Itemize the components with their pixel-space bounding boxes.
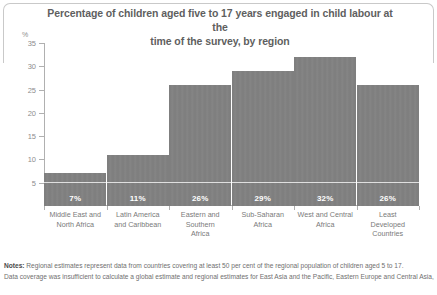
bar-value-label: 7% <box>44 194 106 203</box>
y-tick-label: 35 <box>28 39 36 48</box>
category-label-line: and Caribbean <box>107 220 169 230</box>
category-label-line: Middle East and <box>44 210 106 220</box>
bar-value-label: 26% <box>169 194 231 203</box>
category-label-line: Sub-Saharan <box>232 210 294 220</box>
bar-value-label: 26% <box>357 194 419 203</box>
bar-slot: 32% <box>294 43 356 206</box>
chart-title-line-1: Percentage of children aged five to 17 y… <box>40 6 400 34</box>
category-label-line: Latin America <box>107 210 169 220</box>
bar-value-label: 29% <box>232 194 294 203</box>
y-tick-label: 5 <box>32 178 36 187</box>
category-label-line: West and Central <box>294 210 356 220</box>
bar-slot: 26% <box>169 43 231 206</box>
bar[interactable]: 32% <box>294 57 356 206</box>
category-label-line: Countries <box>357 229 419 239</box>
category-label: LeastDevelopedCountries <box>357 210 419 239</box>
bar-slot: 7% <box>44 43 106 206</box>
category-label: Middle East andNorth Africa <box>44 210 106 239</box>
category-label-line: Africa <box>169 229 231 239</box>
y-tick-label: 25 <box>28 85 36 94</box>
bar-slot: 26% <box>357 43 419 206</box>
y-tick-label: 15 <box>28 132 36 141</box>
x-tick-mark <box>419 206 420 210</box>
bar[interactable]: 7% <box>44 173 106 206</box>
x-axis-category-labels: Middle East andNorth AfricaLatin America… <box>44 210 419 239</box>
category-label: Eastern andSouthernAfrica <box>169 210 231 239</box>
plot-area: 5101520253035 7%11%26%29%32%26% <box>44 43 419 206</box>
bar-slot: 11% <box>107 43 169 206</box>
bar[interactable]: 26% <box>357 85 419 206</box>
notes-label: Notes: <box>4 262 25 269</box>
bar[interactable]: 26% <box>169 85 231 206</box>
category-label-line: Least <box>357 210 419 220</box>
category-label-line: Eastern and <box>169 210 231 220</box>
y-tick-label: 10 <box>28 155 36 164</box>
bar-series: 7%11%26%29%32%26% <box>44 43 419 206</box>
category-label: Latin Americaand Caribbean <box>107 210 169 239</box>
y-tick-label: 30 <box>28 62 36 71</box>
bar-value-label: 11% <box>107 194 169 203</box>
category-label: West and CentralAfrica <box>294 210 356 239</box>
bar-value-label: 32% <box>294 194 356 203</box>
y-axis-unit-label: % <box>22 31 28 38</box>
chart-title: Percentage of children aged five to 17 y… <box>40 6 400 48</box>
y-tick-label: 20 <box>28 108 36 117</box>
chart-notes: Notes: Regional estimates represent data… <box>4 260 434 282</box>
category-label: Sub-SaharanAfrica <box>232 210 294 239</box>
bar[interactable]: 29% <box>232 71 294 206</box>
category-label-line: North Africa <box>44 220 106 230</box>
notes-text-1: Regional estimates represent data from c… <box>26 262 403 269</box>
category-label-line: Developed <box>357 220 419 230</box>
category-label-line: Africa <box>294 220 356 230</box>
category-label-line: Southern <box>169 220 231 230</box>
bar-slot: 29% <box>232 43 294 206</box>
chart-figure: Percentage of children aged five to 17 y… <box>0 0 437 295</box>
notes-line-2: Data coverage was insufficient to calcul… <box>4 271 434 282</box>
notes-line-1: Notes: Regional estimates represent data… <box>4 260 434 271</box>
category-label-line: Africa <box>232 220 294 230</box>
bar[interactable]: 11% <box>107 155 169 206</box>
